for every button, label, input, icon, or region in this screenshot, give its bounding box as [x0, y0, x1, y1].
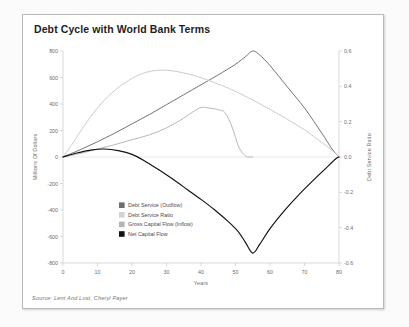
x-axis-title: Years [194, 280, 209, 286]
legend-swatch-3 [119, 231, 125, 237]
x-tick-label: 0 [62, 269, 65, 275]
chart-card: Debt Cycle with World Bank Terms 8006004… [22, 14, 384, 309]
x-tick-label: 50 [233, 269, 239, 275]
legend-label-0: Debt Service (Outflow) [128, 202, 182, 208]
y-tick-label-right: -0.4 [344, 225, 353, 231]
y-axis-title-right: Debt Service Ratio [366, 133, 372, 181]
y-tick-label-left: -600 [47, 234, 58, 240]
series-line-0 [63, 51, 339, 157]
y-tick-label-left: -800 [47, 260, 58, 266]
x-tick-label: 70 [302, 269, 308, 275]
y-tick-label-left: 800 [49, 48, 58, 54]
legend-swatch-2 [119, 222, 125, 228]
y-tick-label-right: 0.4 [344, 83, 351, 89]
source-note: Source: Lent And Lost, Cheryl Payer [32, 295, 128, 301]
x-tick-label: 80 [336, 269, 342, 275]
screenshot-frame: Debt Cycle with World Bank Terms 8006004… [0, 0, 409, 327]
x-tick-label: 10 [95, 269, 101, 275]
legend-label-2: Gross Capital Flow (Inflow) [128, 221, 193, 227]
y-tick-label-left: 400 [49, 101, 58, 107]
y-tick-label-left: 200 [49, 128, 58, 134]
tick-labels-layer: 8006004002000-200-400-600-8000.60.40.20.… [47, 48, 353, 275]
debt-cycle-line-chart: 8006004002000-200-400-600-8000.60.40.20.… [23, 41, 385, 289]
chart-plot-area: 8006004002000-200-400-600-8000.60.40.20.… [23, 41, 385, 289]
y-tick-label-right: -0.6 [344, 260, 353, 266]
y-tick-label-left: -200 [47, 181, 58, 187]
legend-swatch-0 [119, 202, 125, 208]
series-line-3 [63, 149, 339, 253]
y-tick-label-left: 600 [49, 75, 58, 81]
y-tick-label-right: 0.2 [344, 119, 351, 125]
y-tick-label-right: -0.2 [344, 189, 353, 195]
page-title: Debt Cycle with World Bank Terms [34, 23, 210, 35]
series-layer [63, 51, 339, 253]
legend-label-1: Debt Service Ratio [128, 212, 173, 218]
legend-label-3: Net Capital Flow [128, 231, 168, 237]
x-tick-label: 40 [198, 269, 204, 275]
axes-layer [60, 51, 342, 266]
x-tick-label: 30 [164, 269, 170, 275]
series-line-2 [63, 70, 339, 157]
x-tick-label: 20 [129, 269, 135, 275]
legend-swatch-1 [119, 212, 125, 218]
y-tick-label-left: 0 [55, 154, 58, 160]
y-tick-label-right: 0.0 [344, 154, 351, 160]
x-tick-label: 60 [267, 269, 273, 275]
y-tick-label-left: -400 [47, 207, 58, 213]
chart-legend: Debt Service (Outflow)Debt Service Ratio… [119, 202, 193, 237]
y-axis-title-left: Millions Of Dollars [32, 134, 38, 181]
y-tick-label-right: 0.6 [344, 48, 351, 54]
